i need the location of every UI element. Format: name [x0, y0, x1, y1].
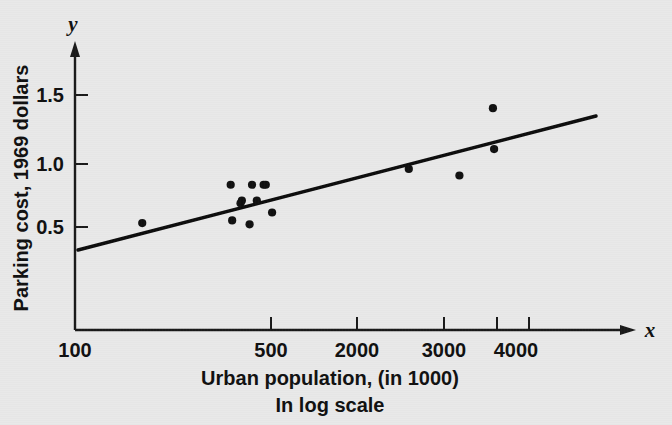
y-axis-arrow-icon	[70, 41, 80, 57]
y-tick-label-0-5: 0.5	[36, 216, 64, 238]
data-point	[138, 219, 146, 227]
y-tick-label-1-0: 1.0	[36, 153, 64, 175]
data-point	[489, 104, 497, 112]
data-point	[245, 220, 253, 228]
x-tick-label-4000: 4000	[494, 339, 539, 361]
data-points-layer	[138, 104, 498, 228]
y-axis-symbol: y	[65, 12, 78, 36]
x-axis-symbol: x	[644, 318, 656, 342]
data-point	[238, 197, 246, 205]
data-point	[248, 181, 256, 189]
data-point	[228, 216, 236, 224]
data-point	[268, 208, 276, 216]
data-point	[262, 181, 270, 189]
y-tick-label-1-5: 1.5	[36, 84, 64, 106]
x-axis-arrow-icon	[620, 325, 636, 335]
chart-canvas: 1.5 1.0 0.5 100 500 2000 3000 4000 y x P…	[0, 0, 672, 425]
data-point	[405, 165, 413, 173]
scatter-chart-figure: 1.5 1.0 0.5 100 500 2000 3000 4000 y x P…	[0, 0, 672, 425]
x-tick-marks	[75, 317, 529, 330]
x-tick-label-100: 100	[58, 339, 91, 361]
x-axis	[75, 325, 636, 335]
data-point	[455, 171, 463, 179]
data-point	[490, 145, 498, 153]
x-tick-label-2000: 2000	[335, 339, 380, 361]
data-point	[253, 197, 261, 205]
y-axis	[70, 41, 80, 330]
x-tick-label-500: 500	[254, 339, 287, 361]
x-tick-label-3000: 3000	[422, 339, 467, 361]
regression-line	[78, 116, 596, 250]
y-axis-title: Parking cost, 1969 dollars	[10, 65, 32, 312]
x-axis-subtitle: In log scale	[276, 394, 385, 416]
data-point	[227, 181, 235, 189]
y-tick-marks	[75, 95, 88, 227]
x-axis-title: Urban population, (in 1000)	[201, 367, 459, 389]
